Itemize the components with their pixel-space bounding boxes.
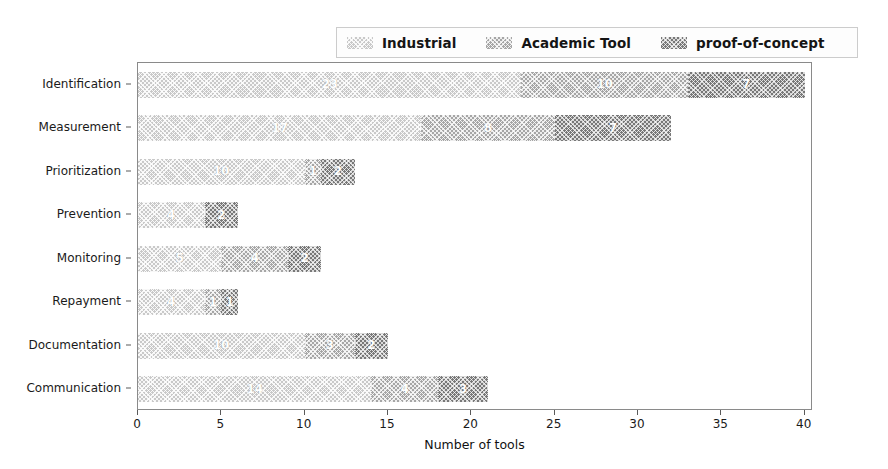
bar-segment: 7	[688, 72, 805, 98]
bar-segment-value-label: 1	[226, 297, 234, 309]
x-tick-label: 25	[546, 417, 561, 431]
bar-row: 1012	[138, 159, 355, 185]
y-tick-mark	[126, 170, 131, 171]
bar-segment: 3	[438, 376, 488, 402]
bar-segment: 1	[305, 159, 322, 185]
x-tick-label: 35	[713, 417, 728, 431]
bar-segment-value-label: 1	[209, 297, 217, 309]
bar-segment: 3	[305, 333, 355, 359]
x-tick-mark	[804, 410, 805, 415]
x-tick-label: 10	[296, 417, 311, 431]
bar-segment: 1	[205, 289, 222, 315]
bar-segment: 4	[138, 289, 205, 315]
y-tick-label: Documentation	[28, 338, 121, 352]
bar-segment: 4	[221, 246, 288, 272]
bar-segment-value-label: 17	[272, 123, 288, 135]
bar-segment: 10	[138, 333, 305, 359]
bar-segment-value-label: 5	[176, 253, 184, 265]
y-tick-label: Repayment	[52, 294, 121, 308]
plot-area: 23107178710124254241110321443	[137, 62, 812, 410]
x-tick-label: 40	[796, 417, 811, 431]
y-tick-label: Monitoring	[57, 251, 121, 265]
stacked-bar-chart-figure: Industrial Academic Tool proof-of-concep…	[0, 0, 888, 469]
bar-segment: 10	[138, 159, 305, 185]
bar-segment-value-label: 2	[334, 166, 342, 178]
bar-segment-value-label: 4	[167, 210, 175, 222]
legend-swatch-icon-proof-of-concept	[661, 37, 687, 49]
bar-segment: 4	[371, 376, 438, 402]
bar-row: 23107	[138, 72, 805, 98]
bar-segment-value-label: 3	[326, 340, 334, 352]
bar-segment-value-label: 10	[213, 340, 229, 352]
bar-row: 1032	[138, 333, 388, 359]
bar-segment: 14	[138, 376, 371, 402]
x-tick-mark	[637, 410, 638, 415]
bars-layer: 23107178710124254241110321443	[138, 63, 811, 409]
bar-segment: 23	[138, 72, 521, 98]
bar-segment: 17	[138, 115, 421, 141]
bar-segment: 2	[205, 202, 238, 228]
y-axis: IdentificationMeasurementPrioritizationP…	[0, 62, 131, 410]
bar-segment-value-label: 10	[213, 166, 229, 178]
bar-segment: 2	[321, 159, 354, 185]
y-tick-mark	[126, 83, 131, 84]
y-tick-label: Identification	[42, 77, 121, 91]
y-tick-label: Communication	[26, 381, 121, 395]
legend-label-industrial: Industrial	[382, 35, 456, 51]
legend-label-academic-tool: Academic Tool	[521, 35, 631, 51]
bar-row: 411	[138, 289, 238, 315]
y-tick-mark	[126, 257, 131, 258]
y-tick-label: Measurement	[39, 120, 121, 134]
bar-row: 1787	[138, 115, 671, 141]
bar-segment: 5	[138, 246, 221, 272]
y-tick-label: Prevention	[57, 207, 121, 221]
x-tick-label: 0	[133, 417, 141, 431]
legend-entry-proof-of-concept: proof-of-concept	[661, 35, 824, 51]
x-tick-mark	[220, 410, 221, 415]
bar-segment: 8	[421, 115, 554, 141]
x-tick-label: 5	[217, 417, 225, 431]
bar-segment-value-label: 2	[217, 210, 225, 222]
y-tick-label: Prioritization	[45, 164, 121, 178]
bar-segment-value-label: 7	[609, 123, 617, 135]
bar-segment-value-label: 3	[459, 384, 467, 396]
legend-swatch-icon-industrial	[347, 37, 373, 49]
y-tick-mark	[126, 388, 131, 389]
legend-swatch-icon-academic-tool	[486, 37, 512, 49]
bar-segment-value-label: 14	[247, 384, 263, 396]
bar-segment-value-label: 8	[484, 123, 492, 135]
bar-segment: 10	[521, 72, 688, 98]
bar-segment: 2	[355, 333, 388, 359]
bar-segment: 1	[221, 289, 238, 315]
x-tick-mark	[137, 410, 138, 415]
bar-row: 42	[138, 202, 238, 228]
y-tick-mark	[126, 301, 131, 302]
bar-segment-value-label: 1	[309, 166, 317, 178]
x-tick-mark	[720, 410, 721, 415]
chart-legend: Industrial Academic Tool proof-of-concep…	[336, 27, 858, 58]
bar-segment-value-label: 2	[367, 340, 375, 352]
bar-row: 1443	[138, 376, 488, 402]
bar-segment: 2	[288, 246, 321, 272]
x-tick-label: 30	[629, 417, 644, 431]
bar-segment-value-label: 7	[742, 79, 750, 91]
x-tick-mark	[470, 410, 471, 415]
x-axis-title: Number of tools	[137, 437, 812, 452]
y-tick-mark	[126, 344, 131, 345]
x-tick-mark	[554, 410, 555, 415]
legend-label-proof-of-concept: proof-of-concept	[696, 35, 824, 51]
bar-segment-value-label: 4	[251, 253, 259, 265]
x-tick-label: 20	[463, 417, 478, 431]
bar-segment-value-label: 10	[597, 79, 613, 91]
legend-entry-academic-tool: Academic Tool	[486, 35, 631, 51]
bar-segment-value-label: 4	[401, 384, 409, 396]
x-tick-mark	[304, 410, 305, 415]
bar-segment: 4	[138, 202, 205, 228]
bar-row: 542	[138, 246, 321, 272]
y-tick-mark	[126, 214, 131, 215]
x-tick-label: 15	[379, 417, 394, 431]
legend-entry-industrial: Industrial	[347, 35, 456, 51]
y-tick-mark	[126, 127, 131, 128]
x-tick-mark	[387, 410, 388, 415]
bar-segment: 7	[555, 115, 672, 141]
